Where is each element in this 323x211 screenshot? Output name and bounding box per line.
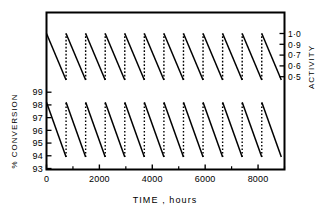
y-tick-label-right: 0·7 — [288, 50, 301, 60]
y-tick-label-right: 0·6 — [288, 61, 301, 71]
y-tick-label-right: 0·5 — [288, 72, 301, 82]
chart-figure: 02000400060008000 93949596979899 1·00·90… — [0, 0, 323, 211]
x-tick-label: 6000 — [195, 174, 216, 184]
y-tick-label-right: 1·0 — [288, 29, 301, 39]
y-tick-label-left: 96 — [33, 126, 43, 136]
x-tick-label: 0 — [44, 174, 49, 184]
y-axis-left-title: % CONVERSION — [10, 93, 19, 168]
y-tick-label-left: 99 — [33, 87, 43, 97]
y-axis-right-title: ACTIVITY — [307, 45, 316, 89]
y-tick-label-left: 95 — [33, 138, 43, 148]
x-axis-title: TIME , hours — [133, 195, 198, 205]
x-tick-label: 4000 — [142, 174, 163, 184]
y-tick-label-left: 98 — [33, 100, 43, 110]
y-tick-label-left: 94 — [33, 151, 43, 161]
y-axis-left-tick-labels: 93949596979899 — [33, 87, 43, 173]
y-tick-label-right: 0·9 — [288, 40, 301, 50]
y-tick-label-left: 93 — [33, 164, 43, 174]
x-tick-label: 2000 — [89, 174, 110, 184]
sawtooth-chart: 02000400060008000 93949596979899 1·00·90… — [0, 0, 323, 211]
y-axis-right-tick-labels: 1·00·90·70·60·5 — [288, 29, 301, 82]
y-tick-label-left: 97 — [33, 113, 43, 123]
x-tick-label: 8000 — [248, 174, 269, 184]
